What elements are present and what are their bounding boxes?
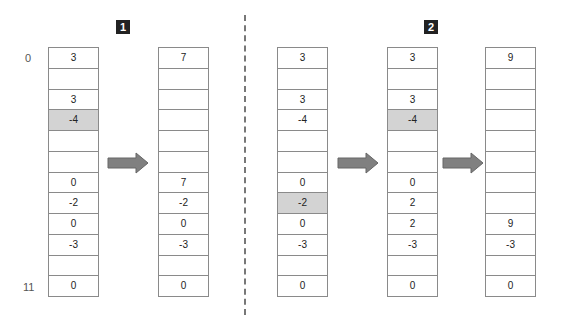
array-cell: 3 [387, 90, 438, 111]
array-cell: 3 [277, 48, 328, 69]
array-cell: 9 [485, 48, 536, 69]
array-cell: -3 [485, 235, 536, 256]
array-cell [277, 152, 328, 173]
panel-divider [244, 15, 246, 315]
array-cell: 7 [158, 48, 209, 69]
right-arrow-icon [107, 152, 149, 174]
array-cell [158, 256, 209, 277]
array-cell: -4 [48, 110, 99, 131]
array-cell: 3 [48, 48, 99, 69]
array-cell [277, 69, 328, 90]
array-cell: -3 [48, 235, 99, 256]
array-cell [158, 69, 209, 90]
array-cell: 0 [158, 214, 209, 235]
index-label-bottom: 11 [23, 281, 34, 293]
array-cell [48, 152, 99, 173]
array-column-panel1-before: 33-40-20-30 [48, 47, 99, 297]
array-cell [485, 90, 536, 111]
panel-badge-1: 1 [116, 20, 130, 34]
array-cell [387, 256, 438, 277]
array-cell: 7 [158, 173, 209, 194]
array-column-panel1-after: 77-20-30 [158, 47, 209, 297]
array-cell: -2 [48, 193, 99, 214]
array-cell [158, 90, 209, 111]
array-cell: 9 [485, 214, 536, 235]
array-cell: 3 [277, 90, 328, 111]
array-cell: 0 [158, 276, 209, 297]
array-cell: -4 [277, 110, 328, 131]
panel-badge-2: 2 [424, 20, 438, 34]
right-arrow-icon [337, 152, 379, 174]
array-cell: 2 [387, 214, 438, 235]
array-cell [48, 131, 99, 152]
array-cell [387, 152, 438, 173]
array-cell [387, 131, 438, 152]
array-cell: -3 [387, 235, 438, 256]
array-cell: 0 [277, 214, 328, 235]
array-cell: 0 [485, 276, 536, 297]
array-cell [485, 193, 536, 214]
array-cell [387, 69, 438, 90]
array-cell [277, 131, 328, 152]
array-cell: 0 [48, 173, 99, 194]
array-cell [485, 131, 536, 152]
array-cell: -2 [277, 193, 328, 214]
array-cell: 0 [48, 214, 99, 235]
right-arrow-icon [442, 152, 484, 174]
array-cell [485, 110, 536, 131]
array-cell: -2 [158, 193, 209, 214]
array-cell [158, 131, 209, 152]
array-cell [485, 152, 536, 173]
array-column-panel2-step2: 99-30 [485, 47, 536, 297]
array-cell [485, 173, 536, 194]
array-cell [48, 256, 99, 277]
array-cell: 0 [277, 173, 328, 194]
array-cell: 0 [387, 276, 438, 297]
array-cell [158, 152, 209, 173]
array-cell: 3 [48, 90, 99, 111]
array-cell: -3 [158, 235, 209, 256]
array-column-panel2-step1: 33-4022-30 [387, 47, 438, 297]
array-cell: 0 [48, 276, 99, 297]
array-cell [48, 69, 99, 90]
array-column-panel2-step0: 33-40-20-30 [277, 47, 328, 297]
array-cell [485, 256, 536, 277]
array-cell: -4 [387, 110, 438, 131]
array-cell: 3 [387, 48, 438, 69]
array-cell [485, 69, 536, 90]
array-cell [277, 256, 328, 277]
array-cell: -3 [277, 235, 328, 256]
array-cell: 2 [387, 193, 438, 214]
array-cell: 0 [387, 173, 438, 194]
index-label-top: 0 [25, 52, 31, 64]
array-cell [158, 110, 209, 131]
array-cell: 0 [277, 276, 328, 297]
